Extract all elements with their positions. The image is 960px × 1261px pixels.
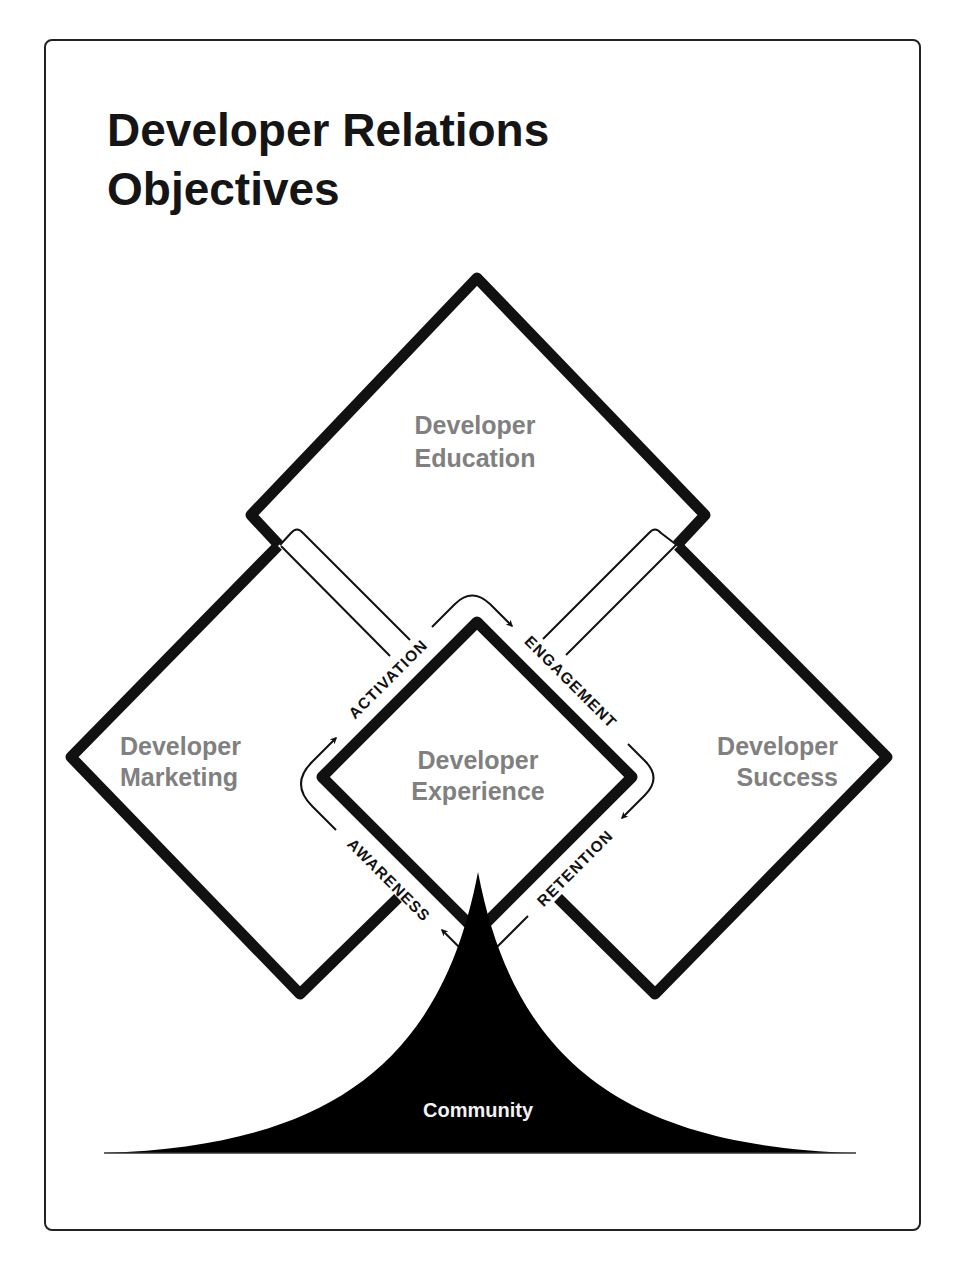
success-line-2: Success — [737, 763, 838, 791]
education-line-2: Education — [415, 444, 536, 472]
success-line-1: Developer — [717, 732, 838, 760]
marketing-line-2: Marketing — [120, 763, 238, 791]
community-label: Community — [423, 1099, 534, 1121]
title-line-2: Objectives — [107, 163, 340, 215]
education-line-1: Developer — [415, 411, 536, 439]
experience-line-2: Experience — [411, 777, 545, 805]
experience-line-1: Developer — [418, 746, 539, 774]
devrel-objectives-diagram: Developer Relations Objectives ACTIVATIO… — [0, 0, 960, 1261]
marketing-line-1: Developer — [120, 732, 241, 760]
title-line-1: Developer Relations — [107, 104, 549, 156]
